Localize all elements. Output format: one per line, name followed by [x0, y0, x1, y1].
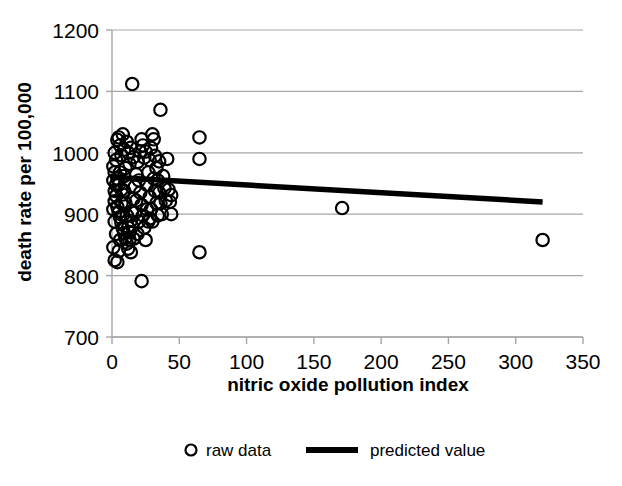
x-tick-label-0: 0	[106, 350, 118, 373]
x-tick-label-100: 100	[229, 350, 264, 373]
x-axis-title: nitric oxide pollution index	[227, 374, 469, 395]
y-tick-label-700: 700	[64, 326, 99, 349]
x-tick-label-250: 250	[431, 350, 466, 373]
legend-label-raw-data: raw data	[206, 441, 272, 460]
x-tick-label-300: 300	[498, 350, 533, 373]
x-tick-label-150: 150	[296, 350, 331, 373]
legend-label-predicted-value: predicted value	[370, 441, 485, 460]
chart-figure: 700800900100011001200 050100150200250300…	[0, 0, 622, 486]
scatter-plot-svg: 700800900100011001200 050100150200250300…	[0, 0, 622, 486]
y-tick-label-1100: 1100	[54, 80, 99, 103]
x-tick-label-200: 200	[364, 350, 399, 373]
x-tick-label-50: 50	[168, 350, 191, 373]
y-tick-label-900: 900	[64, 203, 99, 226]
y-tick-label-1200: 1200	[52, 19, 99, 42]
y-tick-label-1000: 1000	[52, 142, 99, 165]
y-axis-title: death rate per 100,000	[14, 82, 35, 282]
chart-background	[0, 0, 622, 486]
x-tick-label-350: 350	[565, 350, 600, 373]
y-tick-label-800: 800	[64, 265, 99, 288]
